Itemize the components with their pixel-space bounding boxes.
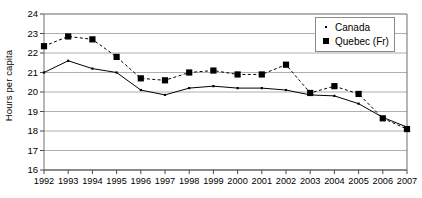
y-tick-label: 18 bbox=[12, 126, 38, 136]
y-tick-label: 19 bbox=[12, 107, 38, 117]
y-tick-label: 21 bbox=[12, 68, 38, 78]
y-tick-label: 20 bbox=[12, 87, 38, 97]
y-tick-label: 17 bbox=[12, 146, 38, 156]
y-tick-label: 22 bbox=[12, 48, 38, 58]
chart-legend: Canada Quebec (Fr) bbox=[315, 17, 395, 52]
legend-label-canada: Canada bbox=[335, 22, 370, 33]
legend-square-icon bbox=[320, 38, 332, 44]
y-tick-label: 23 bbox=[12, 29, 38, 39]
legend-item-quebec: Quebec (Fr) bbox=[320, 34, 389, 48]
legend-label-quebec: Quebec (Fr) bbox=[335, 36, 389, 47]
y-tick-label: 16 bbox=[12, 165, 38, 175]
x-tick-label: 2007 bbox=[387, 176, 422, 187]
legend-dot-icon bbox=[320, 26, 332, 29]
y-axis-title: Hours per capita bbox=[0, 0, 18, 170]
legend-item-canada: Canada bbox=[320, 20, 389, 34]
y-tick-label: 24 bbox=[12, 9, 38, 19]
